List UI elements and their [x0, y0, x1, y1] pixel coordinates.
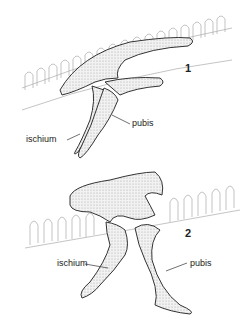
vertebral-column-1	[22, 16, 232, 110]
figure-1-number: 1	[185, 63, 191, 74]
pubis-bone-2	[135, 224, 192, 314]
figure-2	[25, 172, 240, 314]
pelvis-illustration	[0, 0, 247, 330]
figure-1-pubis-label: pubis	[132, 119, 154, 128]
ischium-bone-2	[81, 222, 128, 298]
ilium-1	[60, 38, 193, 96]
figure-2-pubis-label: pubis	[190, 259, 212, 268]
figure-1-ischium-label: ischium	[26, 135, 57, 144]
figure-2-number: 2	[185, 228, 191, 239]
figure-2-ischium-label: ischium	[57, 259, 88, 268]
ilium-2	[70, 172, 163, 222]
